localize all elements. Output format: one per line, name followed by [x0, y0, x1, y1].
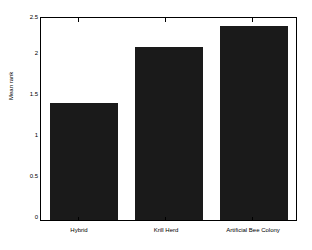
x-tick-label-1: Krill Herd	[154, 226, 179, 234]
bar-artificial-bee-colony	[220, 26, 288, 220]
plot-area	[40, 17, 297, 221]
figure-canvas: Mean rank 0 0.5 1 1.5 2 2.5 H	[0, 0, 312, 250]
bars-layer	[41, 18, 296, 220]
y-tick-label-5: 2.5	[8, 14, 38, 21]
x-tick-label-2: Artificial Bee Colony	[226, 226, 280, 234]
x-tick-mark-top	[78, 18, 79, 22]
y-tick-label-0: 0	[8, 214, 38, 221]
x-tick-mark	[252, 217, 253, 221]
x-tick-mark-top	[165, 18, 166, 22]
y-tick-label-2: 1	[8, 132, 38, 139]
y-tick-label-4: 2	[8, 50, 38, 57]
bar-hybrid	[50, 103, 118, 220]
y-tick-label-3: 1.5	[8, 91, 38, 98]
y-tick-label-1: 0.5	[8, 173, 38, 180]
x-tick-label-0: Hybrid	[70, 226, 87, 234]
x-tick-mark	[165, 217, 166, 221]
x-tick-mark-top	[252, 18, 253, 22]
x-tick-mark	[78, 217, 79, 221]
bar-krill-herd	[135, 47, 203, 220]
